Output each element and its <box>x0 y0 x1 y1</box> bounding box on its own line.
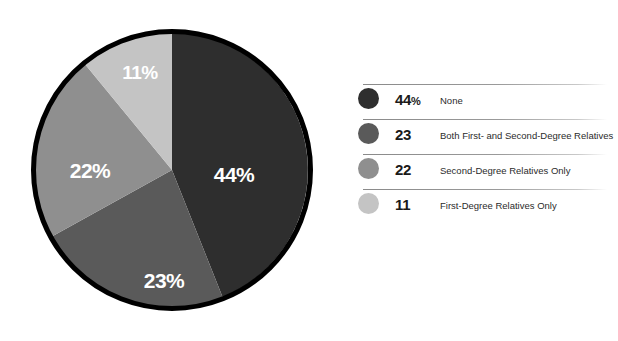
pie-chart-graphic: 44% 23% 22% 11% <box>28 26 316 314</box>
pie-slice-label-first-degree-only: 11% <box>122 62 158 83</box>
legend-label-both-first-and-second-degree: Both First- and Second-Degree Relatives <box>440 130 613 141</box>
legend-label-first-degree-only: First-Degree Relatives Only <box>440 200 557 211</box>
legend-row[interactable]: 23 Both First- and Second-Degree Relativ… <box>355 119 607 154</box>
legend-swatch-both-first-and-second-degree <box>358 123 379 144</box>
legend-divider <box>363 84 607 85</box>
legend-label-none: None <box>440 95 463 106</box>
legend-row[interactable]: 11 First-Degree Relatives Only <box>355 189 607 224</box>
legend-value-number: 44 <box>395 91 411 108</box>
legend-row[interactable]: 22 Second-Degree Relatives Only <box>355 154 607 189</box>
legend-swatch-first-degree-only <box>358 193 379 214</box>
legend-divider <box>363 189 607 190</box>
legend-row[interactable]: 44% None <box>355 84 607 119</box>
legend: 44% None 23 Both First- and Second-Degre… <box>355 84 607 224</box>
legend-label-second-degree-only: Second-Degree Relatives Only <box>440 165 570 176</box>
legend-divider <box>363 119 607 120</box>
legend-value-number: 23 <box>395 126 411 143</box>
legend-divider <box>363 154 607 155</box>
pie-chart-figure: 44% 23% 22% 11% 44% None 23 Both First- … <box>0 0 618 341</box>
pie-slice-label-second-degree-only: 22% <box>70 159 111 182</box>
legend-value-percent-sign: % <box>411 95 420 107</box>
legend-value-both-first-and-second-degree: 23 <box>395 126 411 143</box>
legend-swatch-second-degree-only <box>358 158 379 179</box>
legend-value-second-degree-only: 22 <box>395 161 411 178</box>
legend-value-number: 22 <box>395 161 411 178</box>
legend-value-none: 44% <box>395 91 421 108</box>
legend-value-first-degree-only: 11 <box>395 196 410 213</box>
pie-slice-label-both-first-and-second-degree: 23% <box>144 269 185 292</box>
legend-value-number: 11 <box>395 196 410 213</box>
pie-slice-label-none: 44% <box>214 163 255 186</box>
pie-svg: 44% 23% 22% 11% <box>28 26 316 314</box>
legend-swatch-none <box>358 88 379 109</box>
